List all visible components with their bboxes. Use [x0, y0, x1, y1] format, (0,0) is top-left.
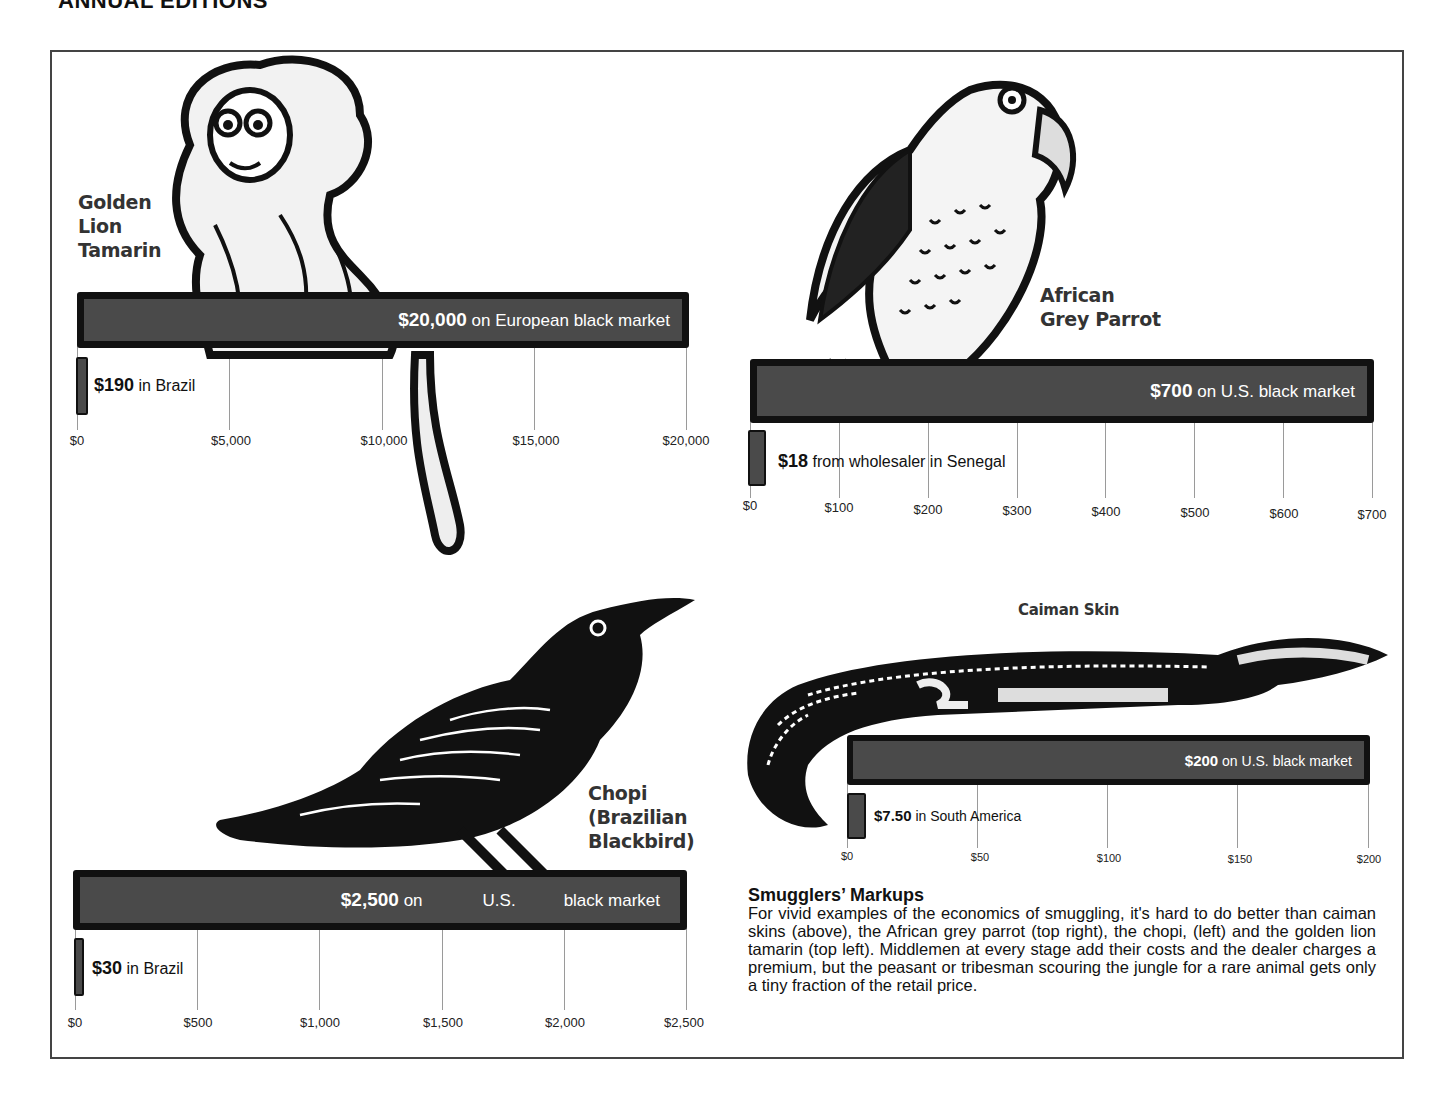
gridline — [1194, 420, 1195, 498]
bar-origin-price — [76, 357, 88, 415]
axis-tick: $150 — [1228, 853, 1252, 865]
axis-tick: $20,000 — [663, 433, 710, 448]
gridline — [564, 928, 565, 1010]
axis-tick: $500 — [1181, 505, 1210, 520]
figure-caption: Smugglers’ Markups For vivid examples of… — [748, 886, 1376, 994]
gridline — [1105, 420, 1106, 498]
axis-tick: $0 — [743, 498, 757, 513]
origin-price-label: $190 in Brazil — [94, 375, 195, 396]
axis-tick: $15,000 — [513, 433, 560, 448]
bar-origin-price — [748, 430, 766, 486]
bar-origin-price — [847, 793, 866, 839]
axis-tick: $1,000 — [300, 1015, 340, 1030]
axis-tick: $1,500 — [423, 1015, 463, 1030]
gridline — [1283, 420, 1284, 498]
animal-name-chopi: Chopi (Brazilian Blackbird) — [588, 781, 694, 853]
axis-tick: $200 — [1357, 853, 1381, 865]
gridline — [319, 928, 320, 1010]
axis-tick: $100 — [825, 500, 854, 515]
gridline — [534, 345, 535, 430]
publication-header: ANNUAL EDITIONS — [58, 0, 268, 14]
axis-tick: $100 — [1097, 852, 1121, 864]
gridline — [442, 928, 443, 1010]
axis-tick: $2,500 — [664, 1015, 704, 1030]
axis-tick: $50 — [971, 851, 989, 863]
axis-tick: $0 — [68, 1015, 82, 1030]
bar-black-market-price: $20,000 on European black market — [77, 292, 689, 348]
axis-tick: $0 — [841, 850, 853, 862]
axis-tick: $200 — [914, 502, 943, 517]
origin-price-label: $18 from wholesaler in Senegal — [778, 451, 1005, 472]
bar-origin-price — [74, 938, 84, 996]
bar-black-market-price: $700 on U.S. black market — [750, 359, 1374, 423]
axis-tick: $0 — [70, 433, 84, 448]
axis-tick: $500 — [184, 1015, 213, 1030]
axis-tick: $10,000 — [361, 433, 408, 448]
bar-black-market-price: $200 on U.S. black market — [847, 735, 1370, 785]
axis-tick: $2,000 — [545, 1015, 585, 1030]
axis-tick: $300 — [1003, 503, 1032, 518]
gridline — [197, 928, 198, 1010]
animal-name-parrot: African Grey Parrot — [1040, 283, 1161, 331]
bar-black-market-price: $2,500 onU.S.black market — [73, 870, 687, 930]
origin-price-label: $7.50 in South America — [874, 807, 1021, 824]
axis-tick: $600 — [1270, 506, 1299, 521]
animal-name-caiman: Caiman Skin — [1018, 598, 1119, 622]
caption-title: Smugglers’ Markups — [748, 886, 1376, 904]
animal-name-tamarin: Golden Lion Tamarin — [78, 190, 161, 262]
origin-price-label: $30 in Brazil — [92, 958, 183, 979]
gridline — [686, 928, 687, 1010]
caiman-illustration — [738, 625, 1398, 840]
gridline — [1372, 420, 1373, 498]
axis-tick: $400 — [1092, 504, 1121, 519]
gridline — [1017, 420, 1018, 498]
axis-tick: $700 — [1358, 507, 1387, 522]
axis-tick: $5,000 — [211, 433, 251, 448]
caption-body: For vivid examples of the economics of s… — [748, 904, 1376, 994]
gridline — [686, 345, 687, 430]
